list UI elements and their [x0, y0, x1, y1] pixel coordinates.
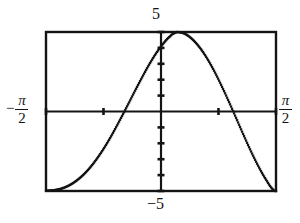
curve-pixel — [248, 146, 250, 148]
curve-pixel — [253, 157, 255, 159]
curve-pixel — [220, 84, 222, 86]
curve-pixel — [228, 101, 230, 103]
curve-pixel — [128, 101, 130, 103]
curve-pixel — [215, 73, 217, 75]
curve-pixel — [236, 119, 238, 121]
curve-pixel — [221, 86, 223, 88]
curve-pixel — [216, 75, 218, 77]
curve-pixel — [275, 190, 277, 192]
curve-pixel — [251, 152, 253, 154]
curve-pixel — [230, 105, 232, 107]
curve-pixel — [249, 148, 251, 150]
curve-pixel — [234, 114, 236, 116]
curve-pixel — [222, 88, 224, 90]
curve-pixel — [223, 90, 225, 92]
curve-pixel — [239, 126, 241, 128]
curve-pixel — [247, 144, 249, 146]
curve-pixel — [238, 124, 240, 126]
curve-pixel — [219, 82, 221, 84]
curve-pixel — [244, 137, 246, 139]
curve-pixel — [226, 97, 228, 99]
curve-pixel — [245, 139, 247, 141]
curve-pixel — [131, 95, 133, 97]
curve-pixel — [233, 112, 235, 114]
axes-group — [46, 32, 276, 191]
curve-pixel — [227, 99, 229, 101]
curve-pixel — [129, 99, 131, 101]
curve-pixel — [218, 79, 220, 81]
curve-pixel — [240, 128, 242, 130]
curve-pixel — [229, 103, 231, 105]
curve-pixel — [217, 77, 219, 79]
curve-pixel — [243, 135, 245, 137]
curve-pixel — [130, 97, 132, 99]
curve-pixel — [225, 94, 227, 96]
curve-pixel — [252, 155, 254, 157]
curve-pixel — [224, 92, 226, 94]
curve-pixel — [254, 159, 256, 161]
curve-pixel — [255, 161, 257, 163]
curve-pixel — [246, 142, 248, 144]
curve-pixel — [250, 150, 252, 152]
curve-pixel — [235, 117, 237, 119]
graph-figure: − π 2 π 2 5 −5 — [0, 0, 300, 223]
curve-pixel — [242, 133, 244, 135]
curve-pixel — [231, 108, 233, 110]
curve-pixel — [232, 110, 234, 112]
curve-pixel — [237, 121, 239, 123]
plot-canvas — [0, 0, 300, 223]
curve-pixel — [241, 130, 243, 132]
